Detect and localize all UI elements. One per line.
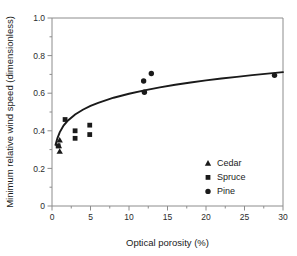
y-tick-label: 0.4 xyxy=(33,126,45,136)
y-tick-label: 0.8 xyxy=(33,51,45,61)
data-point-spruce xyxy=(73,128,78,133)
legend-marker-spruce xyxy=(206,175,211,180)
x-tick-label: 20 xyxy=(201,212,211,222)
x-tick-label: 15 xyxy=(163,212,173,222)
y-tick-label: 0.2 xyxy=(33,164,45,174)
axes-group xyxy=(52,18,283,206)
x-tick-label: 25 xyxy=(240,212,250,222)
y-tick-label: 1.0 xyxy=(33,13,45,23)
y-axis-ticks: 00.20.40.60.81.0 xyxy=(33,13,52,211)
legend-label-spruce: Spruce xyxy=(217,172,246,182)
legend-label-pine: Pine xyxy=(217,186,235,196)
legend-marker-pine xyxy=(205,189,210,194)
y-axis-title: Minimum relative wind speed (dimensionle… xyxy=(4,16,15,208)
x-tick-label: 10 xyxy=(124,212,134,222)
series-spruce xyxy=(56,117,92,148)
legend-label-cedar: Cedar xyxy=(217,158,242,168)
data-point-spruce xyxy=(73,136,78,141)
data-point-pine xyxy=(149,71,154,76)
scatter-chart-figure: 05101520253000.20.40.60.81.0Optical poro… xyxy=(0,0,297,256)
data-point-spruce xyxy=(87,132,92,137)
x-tick-label: 5 xyxy=(88,212,93,222)
data-point-cedar xyxy=(57,148,63,154)
legend: CedarSprucePine xyxy=(205,158,246,196)
legend-marker-cedar xyxy=(205,160,211,166)
data-point-spruce xyxy=(63,117,68,122)
x-tick-label: 0 xyxy=(50,212,55,222)
x-tick-label: 30 xyxy=(278,212,288,222)
data-point-pine xyxy=(141,78,146,83)
data-point-spruce xyxy=(56,143,61,148)
data-point-pine xyxy=(272,73,277,78)
data-point-spruce xyxy=(87,123,92,128)
y-tick-label: 0 xyxy=(40,201,45,211)
chart-canvas: 05101520253000.20.40.60.81.0Optical poro… xyxy=(0,0,297,256)
y-tick-label: 0.6 xyxy=(33,88,45,98)
x-axis-title: Optical porosity (%) xyxy=(126,237,209,248)
x-axis-ticks: 051015202530 xyxy=(50,206,288,222)
data-point-pine xyxy=(142,90,147,95)
